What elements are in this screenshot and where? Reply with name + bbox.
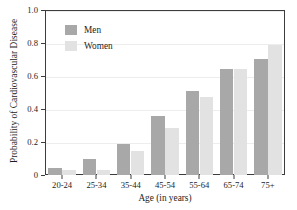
bar-women-75+ [268,45,282,175]
chart-legend: MenWomen [65,22,113,54]
legend-item-women: Women [65,38,113,54]
gridline [46,110,284,111]
x-tick-label: 75+ [245,180,291,190]
gridline [46,11,284,12]
bar-men-25-34 [83,159,97,176]
x-tick-mark [62,175,63,179]
bar-women-45-54 [165,128,179,175]
x-tick-mark [130,175,131,179]
bar-women-35-44 [131,151,145,175]
x-tick-mark [96,175,97,179]
x-tick-mark [267,175,268,179]
bar-men-75+ [254,59,268,175]
y-tick-label: 0.4 [8,104,38,114]
legend-label-men: Men [84,25,101,35]
x-tick-mark [233,175,234,179]
legend-swatch-women [65,41,77,51]
y-tick-label: 0 [8,170,38,180]
bar-women-65-74 [234,69,248,175]
legend-label-women: Women [84,41,113,51]
bar-chart-figure: Probability of Cardiovascular Disease 00… [0,0,297,210]
x-tick-mark [165,175,166,179]
bar-men-35-44 [117,144,131,175]
bar-women-20-24 [62,170,76,175]
bar-men-65-74 [220,69,234,175]
x-axis-title: Age (in years) [45,193,285,203]
bar-men-45-54 [151,116,165,175]
y-tick-label: 0.8 [8,38,38,48]
y-tick-label: 1.0 [8,5,38,15]
bar-women-55-64 [200,97,214,175]
y-tick-mark [41,109,45,110]
y-tick-mark [41,142,45,143]
y-tick-label: 0.6 [8,71,38,81]
x-tick-mark [199,175,200,179]
bar-men-20-24 [48,168,62,175]
bar-women-25-34 [97,170,111,175]
legend-item-men: Men [65,22,113,38]
y-tick-mark [41,175,45,176]
y-tick-mark [41,76,45,77]
gridline [46,77,284,78]
bar-men-55-64 [186,91,200,175]
y-tick-label: 0.2 [8,137,38,147]
y-tick-mark [41,10,45,11]
y-axis-title: Probability of Cardiovascular Disease [9,6,19,176]
legend-swatch-men [65,25,77,35]
y-tick-mark [41,43,45,44]
